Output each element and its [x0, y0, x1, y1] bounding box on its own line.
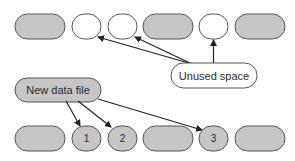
unused-block [72, 14, 101, 39]
unused-space-callout: Unused space [171, 63, 257, 88]
arrow [66, 101, 80, 126]
unused-space-label: Unused space [179, 70, 249, 82]
new-data-arrows [66, 99, 202, 130]
block-number: 1 [84, 133, 90, 144]
block-number: 3 [211, 133, 217, 144]
used-block [235, 126, 285, 151]
block-number: 2 [120, 133, 126, 144]
new-block-3: 3 [199, 126, 228, 151]
used-block [143, 126, 193, 151]
arrow [98, 99, 202, 130]
bottom-row: 1 2 3 [15, 126, 285, 151]
unused-block [108, 14, 137, 39]
new-block-1: 1 [72, 126, 101, 151]
used-block [15, 126, 65, 151]
new-data-file-label: New data file [26, 84, 90, 96]
new-data-file-callout: New data file [15, 78, 101, 102]
unused-block [199, 14, 228, 39]
used-block [15, 14, 65, 39]
top-row [15, 14, 285, 39]
arrow [78, 101, 111, 127]
unused-space-arrows [98, 37, 214, 64]
new-block-2: 2 [108, 126, 137, 151]
used-block [143, 14, 193, 39]
fragmentation-diagram: Unused space New data file 1 2 3 [0, 0, 295, 161]
used-block [235, 14, 285, 39]
arrow [98, 37, 192, 64]
